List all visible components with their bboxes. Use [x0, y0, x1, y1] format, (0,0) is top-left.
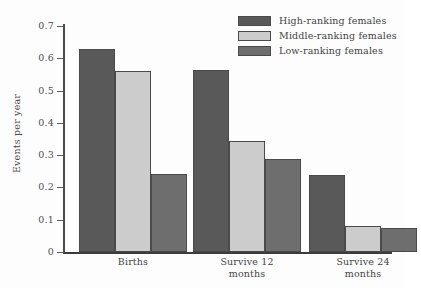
y-axis-tick-label-text: 0.6 — [22, 53, 54, 63]
x-axis-category-label-line: months — [187, 268, 307, 280]
bar — [345, 226, 381, 252]
y-axis-title: Events per year — [11, 74, 22, 194]
bar — [79, 49, 115, 252]
bar — [115, 71, 151, 252]
y-axis-tick — [57, 252, 64, 253]
legend-label: Middle-ranking females — [279, 30, 397, 42]
x-axis-category-label-line: months — [303, 268, 421, 280]
y-axis-tick-label: 0.2 — [22, 182, 54, 192]
x-axis-category-label-line: Births — [73, 256, 193, 268]
x-axis-category-label: Survive 24months — [303, 256, 421, 279]
y-axis-tick-label-text: 0.2 — [22, 182, 54, 192]
legend-label: Low-ranking females — [279, 45, 383, 57]
legend-swatch — [238, 46, 271, 56]
bar — [381, 228, 417, 252]
y-axis-tick-label: 0.5 — [22, 86, 54, 96]
x-axis-category-label: Births — [73, 256, 193, 268]
y-axis-tick-label-text: 0.7 — [22, 21, 54, 31]
y-axis-tick-label-text: 0.5 — [22, 86, 54, 96]
legend-swatch — [238, 16, 271, 26]
y-axis-tick-label: 0.3 — [22, 150, 54, 160]
y-axis-tick-label: 0.4 — [22, 118, 54, 128]
bar — [193, 70, 229, 252]
y-axis-tick-label: 0.1 — [22, 215, 54, 225]
bar — [309, 175, 345, 252]
x-axis-category-label: Survive 12months — [187, 256, 307, 279]
y-axis-tick-label-text: 0.4 — [22, 118, 54, 128]
x-axis-category-label-line: Survive 12 — [187, 256, 307, 268]
x-axis-category-label-line: Survive 24 — [303, 256, 421, 268]
plot-area — [63, 24, 392, 252]
y-axis-tick-label-text: 0.1 — [22, 215, 54, 225]
legend-label: High-ranking females — [279, 15, 386, 27]
y-axis-tick-label: 0 — [22, 247, 54, 257]
y-axis-tick-label: 0.6 — [22, 53, 54, 63]
y-axis-tick-label: 0.7 — [22, 21, 54, 31]
bar — [229, 141, 265, 252]
y-axis-tick-label-text: 0 — [22, 247, 54, 257]
y-axis-tick-label-text: 0.3 — [22, 150, 54, 160]
bar — [265, 159, 301, 252]
bar — [151, 174, 187, 252]
legend-swatch — [238, 31, 271, 41]
